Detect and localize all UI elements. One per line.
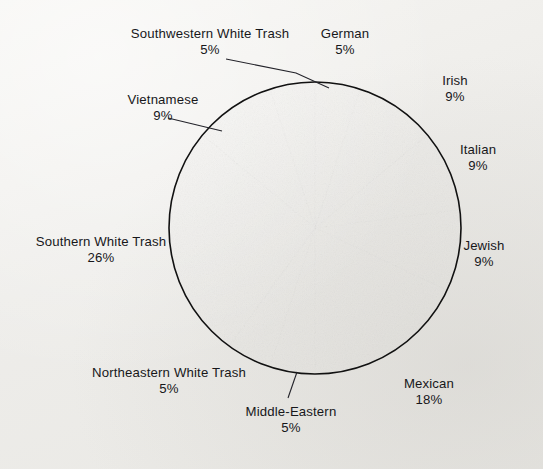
slice-label-southern-white-trash: Southern White Trash 26% — [16, 234, 186, 265]
slice-label-mexican: Mexican 18% — [381, 376, 477, 407]
leader-line-middle-eastern — [288, 372, 297, 398]
slice-label-italian: Italian 9% — [440, 142, 516, 173]
slice-label-northeastern-white-trash: Northeastern White Trash 5% — [69, 365, 269, 396]
pie-slices-group — [169, 82, 461, 374]
slice-label-jewish: Jewish 9% — [446, 238, 522, 269]
slice-label-middle-eastern-name: Middle-Eastern — [246, 404, 337, 419]
slice-label-vietnamese: Vietnamese 9% — [101, 92, 225, 123]
slice-label-jewish-name: Jewish — [463, 238, 504, 253]
slice-label-german-name: German — [321, 26, 370, 41]
slice-label-mexican-percent: 18% — [381, 392, 477, 408]
slice-label-irish-name: Irish — [442, 73, 468, 88]
slice-label-northeastern-white-trash-percent: 5% — [69, 381, 269, 397]
slice-label-italian-percent: 9% — [440, 158, 516, 174]
slice-label-southwestern-white-trash-percent: 5% — [110, 42, 310, 58]
slice-label-vietnamese-percent: 9% — [101, 108, 225, 124]
slice-label-southern-white-trash-percent: 26% — [16, 250, 186, 266]
slice-label-german: German 5% — [300, 26, 390, 57]
slice-label-middle-eastern-percent: 5% — [218, 420, 364, 436]
slice-label-italian-name: Italian — [460, 142, 496, 157]
slice-label-southwestern-white-trash-name: Southwestern White Trash — [131, 26, 289, 41]
slice-label-german-percent: 5% — [300, 42, 390, 58]
slice-label-mexican-name: Mexican — [404, 376, 454, 391]
slice-label-jewish-percent: 9% — [446, 254, 522, 270]
slice-label-middle-eastern: Middle-Eastern 5% — [218, 404, 364, 435]
slice-label-northeastern-white-trash-name: Northeastern White Trash — [92, 365, 246, 380]
slice-label-southern-white-trash-name: Southern White Trash — [36, 234, 167, 249]
slice-label-irish-percent: 9% — [417, 89, 493, 105]
pie-chart-figure: Southwestern White Trash 5% German 5% Ir… — [0, 0, 543, 469]
slice-label-vietnamese-name: Vietnamese — [128, 92, 199, 107]
slice-label-southwestern-white-trash: Southwestern White Trash 5% — [110, 26, 310, 57]
slice-label-irish: Irish 9% — [417, 73, 493, 104]
